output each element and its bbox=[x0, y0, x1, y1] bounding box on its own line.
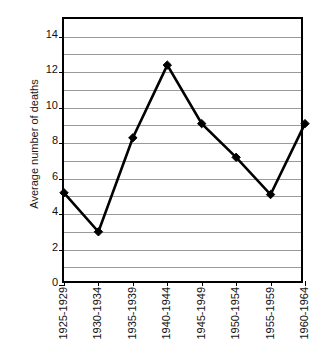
x-axis-tick-mark bbox=[305, 281, 306, 286]
line-chart: Average number of deaths 02468101214 192… bbox=[0, 0, 327, 359]
x-axis-tick-label: 1960-1964 bbox=[298, 287, 310, 357]
x-axis-tick-label: 1945-1949 bbox=[195, 287, 207, 357]
data-point-marker bbox=[301, 119, 309, 127]
x-axis-tick-label: 1950-1954 bbox=[229, 287, 241, 357]
y-axis-tick-label: 10 bbox=[28, 100, 58, 111]
x-axis-tick-label: 1925-1929 bbox=[57, 287, 69, 357]
y-axis-tick-label: 0 bbox=[28, 277, 58, 288]
series-line bbox=[64, 65, 305, 232]
x-axis-tick-label: 1930-1934 bbox=[91, 287, 103, 357]
x-axis-tick-label: 1955-1959 bbox=[264, 287, 276, 357]
x-axis-tick-labels: 1925-19291930-19341935-19391940-19441945… bbox=[62, 283, 303, 359]
y-axis-tick-label: 6 bbox=[28, 171, 58, 182]
x-axis-tick-label: 1935-1939 bbox=[126, 287, 138, 357]
x-axis-tick-label: 1940-1944 bbox=[160, 287, 172, 357]
plot-area bbox=[62, 17, 303, 283]
y-axis-tick-label: 8 bbox=[28, 135, 58, 146]
data-series-line bbox=[64, 19, 305, 285]
y-axis-tick-label: 12 bbox=[28, 64, 58, 75]
y-axis-tick-label: 4 bbox=[28, 206, 58, 217]
y-axis-tick-labels: 02468101214 bbox=[28, 0, 58, 359]
y-axis-tick-label: 14 bbox=[28, 29, 58, 40]
data-point-marker bbox=[129, 134, 137, 142]
y-axis-tick-label: 2 bbox=[28, 242, 58, 253]
